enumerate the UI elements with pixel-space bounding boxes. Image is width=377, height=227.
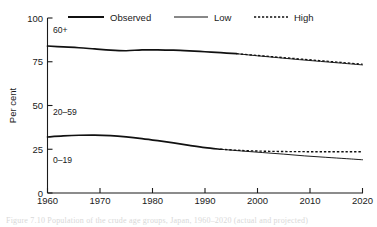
x-axis-tick-labels: 1960 1970 1980 1990 2000 2010 2020 — [37, 195, 373, 206]
y-axis-title: Per cent — [7, 87, 18, 123]
series-observed-upper — [48, 46, 237, 54]
x-ticklabel-2010: 2010 — [299, 195, 320, 206]
x-axis-ticks — [48, 188, 363, 193]
x-ticklabel-1960: 1960 — [37, 195, 58, 206]
y-ticklabel-75: 75 — [32, 56, 43, 67]
y-axis-ticks — [48, 18, 53, 193]
annotation-age-20-59: 20–59 — [53, 107, 77, 117]
series-high-upper — [237, 54, 363, 64]
legend-label-low: Low — [214, 12, 232, 23]
y-ticklabel-25: 25 — [32, 144, 43, 155]
chart-series-layer — [48, 46, 363, 160]
x-ticklabel-1980: 1980 — [142, 195, 163, 206]
chart-axes — [48, 18, 364, 193]
population-age-group-line-chart: 100 75 50 25 0 Per cent 1960 1970 1980 1… — [0, 0, 377, 227]
series-low-lower — [221, 149, 363, 160]
chart-legend: Observed Low High — [68, 12, 314, 23]
annotation-age-0-19: 0–19 — [53, 155, 72, 165]
figure-container: 100 75 50 25 0 Per cent 1960 1970 1980 1… — [0, 0, 377, 227]
annotation-age-60-plus: 60+ — [53, 25, 68, 35]
y-ticklabel-100: 100 — [27, 13, 43, 24]
series-observed-lower — [48, 135, 221, 149]
x-ticklabel-1990: 1990 — [194, 195, 215, 206]
y-ticklabel-50: 50 — [32, 100, 43, 111]
legend-label-observed: Observed — [110, 12, 151, 23]
y-axis-tick-labels: 100 75 50 25 0 — [27, 13, 43, 199]
x-ticklabel-2000: 2000 — [247, 195, 268, 206]
x-ticklabel-1970: 1970 — [89, 195, 110, 206]
x-ticklabel-2020: 2020 — [352, 195, 373, 206]
legend-label-high: High — [294, 12, 314, 23]
figure-caption: Figure 7.10 Population of the crude age … — [6, 216, 377, 225]
